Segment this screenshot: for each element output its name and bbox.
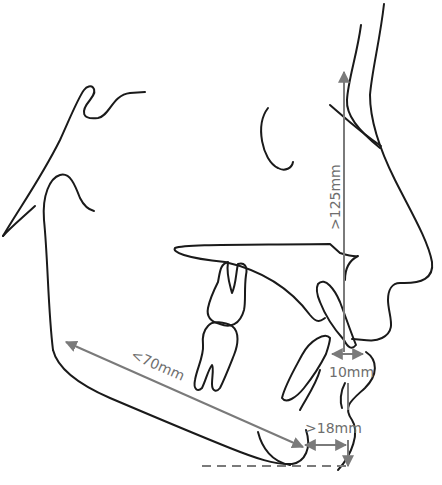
label-mandibular-body-length: <70mm	[129, 346, 187, 384]
lower-incisor	[282, 336, 330, 400]
measurement-chin-distance: >18mm	[202, 420, 362, 466]
soft-tissue-profile	[330, 4, 432, 341]
cephalometric-diagram: >125mm <70mm 10mm >18mm	[0, 0, 442, 485]
upper-molar	[208, 262, 247, 326]
orbit	[261, 108, 293, 170]
lower-molar	[195, 322, 238, 390]
label-chin-distance: >18mm	[305, 420, 362, 436]
maxilla-palate	[175, 244, 358, 321]
label-vertical-face-height: >125mm	[327, 164, 343, 230]
upper-incisor	[317, 282, 356, 348]
cranial-base	[3, 86, 145, 350]
label-lip-distance: 10mm	[329, 364, 374, 380]
